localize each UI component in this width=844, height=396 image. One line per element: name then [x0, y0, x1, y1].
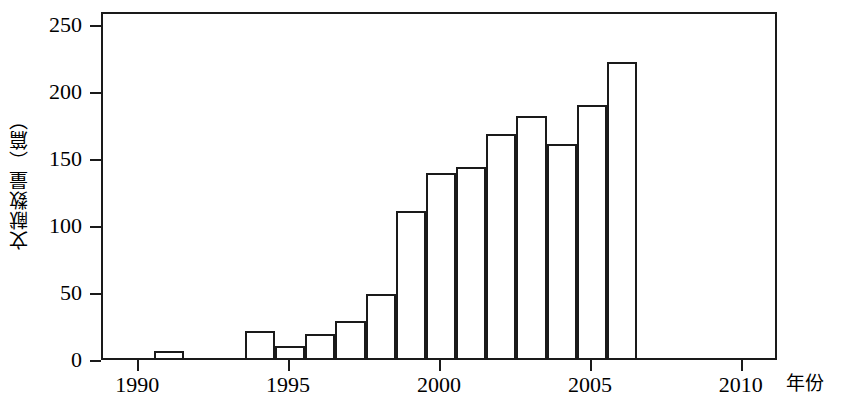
y-tick-label-50: 50 [8, 282, 82, 304]
y-tick-200 [90, 92, 101, 94]
x-tick-2005 [590, 360, 592, 371]
bar-2000 [426, 173, 456, 358]
x-axis-title: 年份 [786, 374, 824, 393]
bars-container [103, 14, 775, 358]
x-tick-label-2005: 2005 [545, 374, 635, 396]
x-tick-1990 [137, 360, 139, 371]
x-tick-2000 [439, 360, 441, 371]
bar-1996 [305, 334, 335, 358]
x-tick-2010 [741, 360, 743, 371]
bar-1998 [366, 294, 396, 358]
x-tick-label-2000: 2000 [394, 374, 484, 396]
y-tick-250 [90, 25, 101, 27]
x-tick-label-2010: 2010 [696, 374, 786, 396]
x-tick-label-1995: 1995 [243, 374, 333, 396]
y-tick-label-200: 200 [8, 81, 82, 103]
y-tick-label-0: 0 [8, 349, 82, 371]
bar-2006 [607, 62, 637, 358]
y-axis-title: 文献数量（篇） [2, 0, 36, 360]
y-tick-label-250: 250 [8, 14, 82, 36]
y-tick-50 [90, 293, 101, 295]
bar-2005 [577, 105, 607, 358]
bar-2004 [547, 144, 577, 358]
bar-2003 [516, 116, 546, 358]
plot-area [101, 12, 777, 360]
bar-2001 [456, 167, 486, 358]
y-tick-label-100: 100 [8, 215, 82, 237]
y-tick-0 [90, 360, 101, 362]
bar-1997 [335, 321, 365, 358]
y-tick-label-150: 150 [8, 148, 82, 170]
bar-1994 [245, 331, 275, 358]
bar-2002 [486, 134, 516, 358]
y-tick-100 [90, 226, 101, 228]
bar-chart-figure: 文献数量（篇） 050100150200250 1990199520002005… [0, 0, 844, 396]
bar-1991 [154, 351, 184, 358]
y-tick-150 [90, 159, 101, 161]
bar-1999 [396, 211, 426, 358]
x-tick-label-1990: 1990 [92, 374, 182, 396]
bar-1995 [275, 346, 305, 358]
x-tick-1995 [288, 360, 290, 371]
